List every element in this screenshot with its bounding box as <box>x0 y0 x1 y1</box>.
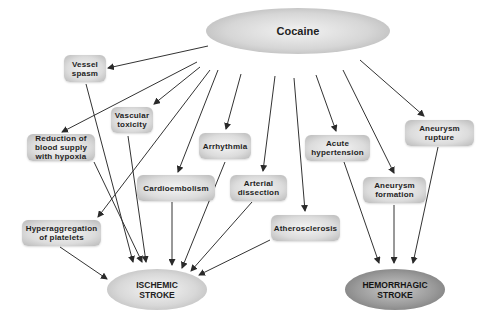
vascular-toxicity-node: Vascular toxicity <box>111 107 153 133</box>
arterial-dissection-node: Arterial dissection <box>230 175 287 201</box>
arrow-cocaine-to-vessel-spasm <box>108 46 208 68</box>
arrow-cocaine-to-aneurysm-rupture <box>360 60 424 116</box>
arrow-cocaine-to-arterial-dissection <box>263 76 275 171</box>
cocaine-label: Cocaine <box>277 25 320 37</box>
hemorrhagic-stroke-label: HEMORRHAGIC STROKE <box>362 280 427 300</box>
vessel-spasm-node: Vessel spasm <box>64 55 106 82</box>
arrow-aneurysm-rupture-to-hemorrhagic <box>413 147 438 263</box>
arrow-cocaine-to-arrhythmia <box>226 74 241 129</box>
hemorrhagic-stroke-node: HEMORRHAGIC STROKE <box>345 269 445 310</box>
vascular-toxicity-label: Vascular toxicity <box>115 111 150 129</box>
arterial-dissection-label: Arterial dissection <box>238 179 280 197</box>
ischemic-stroke-node: ISCHEMIC STROKE <box>107 269 207 310</box>
hyperaggregation-label: Hyperaggregation of platelets <box>26 224 98 242</box>
cocaine-node: Cocaine <box>206 8 390 54</box>
acute-hypertension-label: Acute hypertension <box>311 139 364 157</box>
arrow-cocaine-to-acute-hypertension <box>316 75 336 131</box>
arrhythmia-label: Arrhythmia <box>203 142 248 151</box>
arrow-hyperaggregation-to-ischemic <box>60 247 107 279</box>
ischemic-stroke-label: ISCHEMIC STROKE <box>136 280 178 300</box>
arrow-arterial-dissection-to-ischemic <box>191 202 252 271</box>
hyperaggregation-node: Hyperaggregation of platelets <box>22 220 101 246</box>
arrow-atherosclerosis-to-ischemic <box>199 240 270 275</box>
aneurysm-formation-node: Aneurysm formation <box>363 177 426 203</box>
acute-hypertension-node: Acute hypertension <box>305 135 370 161</box>
cardioembolism-label: Cardioembolism <box>143 184 208 193</box>
atherosclerosis-label: Atherosclerosis <box>274 224 337 233</box>
cardioembolism-node: Cardioembolism <box>137 175 215 201</box>
reduction-blood-supply-node: Reduction of blood supply with hypoxia <box>27 134 95 161</box>
aneurysm-formation-label: Aneurysm formation <box>374 181 415 199</box>
atherosclerosis-node: Atherosclerosis <box>271 215 340 241</box>
aneurysm-rupture-label: Aneurysm rupture <box>419 124 460 142</box>
arrow-cocaine-to-atherosclerosis <box>294 78 305 211</box>
arrhythmia-node: Arrhythmia <box>199 133 251 159</box>
aneurysm-rupture-node: Aneurysm rupture <box>405 120 474 146</box>
reduction-blood-supply-label: Reduction of blood supply with hypoxia <box>35 134 87 161</box>
vessel-spasm-label: Vessel spasm <box>72 60 98 78</box>
cocaine-stroke-diagram: Cocaine Vessel spasm Vascular toxicity R… <box>0 0 493 324</box>
